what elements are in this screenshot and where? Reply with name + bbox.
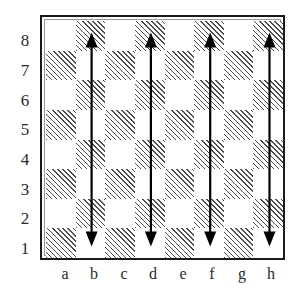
square-g4 [224,140,254,170]
file-label-g: g [227,266,257,282]
file-label-b: b [79,266,109,282]
square-c3 [105,169,135,199]
square-d6 [135,80,165,110]
rank-label-1: 1 [14,240,36,257]
square-f4 [194,140,224,170]
square-e2 [165,199,195,229]
square-b8 [76,21,106,51]
square-b7 [76,51,106,81]
square-f1 [194,228,224,258]
square-d2 [135,199,165,229]
file-label-d: d [138,266,168,282]
file-label-h: h [256,266,286,282]
square-g2 [224,199,254,229]
square-g3 [224,169,254,199]
rank-label-2: 2 [14,210,36,227]
square-d7 [135,51,165,81]
file-label-f: f [197,266,227,282]
square-b5 [76,110,106,140]
chessboard-figure: 8 7 6 5 4 3 2 1 [0,0,300,295]
square-a4 [46,140,76,170]
square-b3 [76,169,106,199]
rank-label-8: 8 [14,32,36,49]
square-h5 [253,110,283,140]
square-b4 [76,140,106,170]
square-e4 [165,140,195,170]
square-a2 [46,199,76,229]
square-h6 [253,80,283,110]
square-d8 [135,21,165,51]
square-f3 [194,169,224,199]
square-f6 [194,80,224,110]
square-g8 [224,21,254,51]
square-e3 [165,169,195,199]
square-c5 [105,110,135,140]
square-a1 [46,228,76,258]
square-b1 [76,228,106,258]
square-h3 [253,169,283,199]
square-c6 [105,80,135,110]
square-a6 [46,80,76,110]
file-label-e: e [168,266,198,282]
square-d4 [135,140,165,170]
square-a3 [46,169,76,199]
square-g5 [224,110,254,140]
square-f7 [194,51,224,81]
square-c1 [105,228,135,258]
square-c8 [105,21,135,51]
file-label-c: c [109,266,139,282]
square-d5 [135,110,165,140]
rank-label-4: 4 [14,151,36,168]
square-g6 [224,80,254,110]
rank-label-5: 5 [14,121,36,138]
square-h2 [253,199,283,229]
square-c2 [105,199,135,229]
square-f5 [194,110,224,140]
square-c7 [105,51,135,81]
board-grid [46,21,283,258]
square-e7 [165,51,195,81]
square-e5 [165,110,195,140]
square-d3 [135,169,165,199]
square-b6 [76,80,106,110]
square-e1 [165,228,195,258]
square-g7 [224,51,254,81]
square-f8 [194,21,224,51]
square-h1 [253,228,283,258]
square-a7 [46,51,76,81]
square-h8 [253,21,283,51]
square-e6 [165,80,195,110]
square-h7 [253,51,283,81]
chessboard [40,15,285,260]
square-g1 [224,228,254,258]
square-f2 [194,199,224,229]
rank-label-7: 7 [14,62,36,79]
square-a8 [46,21,76,51]
rank-label-3: 3 [14,181,36,198]
rank-label-6: 6 [14,92,36,109]
square-d1 [135,228,165,258]
square-a5 [46,110,76,140]
file-label-a: a [50,266,80,282]
square-e8 [165,21,195,51]
square-c4 [105,140,135,170]
square-b2 [76,199,106,229]
square-h4 [253,140,283,170]
